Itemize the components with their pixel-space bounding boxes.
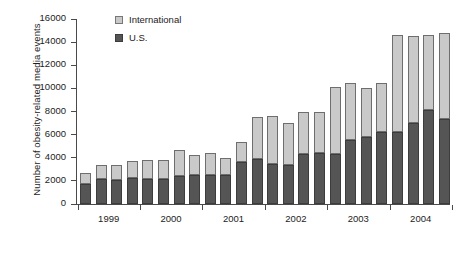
bar [345,83,356,204]
bar-segment-us [189,175,200,204]
bar [361,88,372,204]
bar-segment-international [158,160,169,179]
y-tick-label: 2000 [6,174,66,185]
x-axis-year-label: 2001 [199,213,269,224]
legend-label-international: International [129,14,181,25]
legend-item-international: International [115,14,181,25]
bar-segment-international [111,165,122,179]
bar-segment-international [298,112,309,155]
bar-segment-us [423,110,434,204]
bar [376,83,387,204]
bar-segment-international [236,142,247,163]
x-axis-year-label: 1999 [74,213,144,224]
bar [423,35,434,204]
x-axis-separator [265,205,266,210]
bar-segment-us [252,159,263,204]
bar-segment-us [345,140,356,204]
y-tick-label: 0 [6,197,66,208]
x-axis-separator [390,205,391,210]
bar-segment-international [127,161,138,178]
x-axis-separator [202,205,203,210]
bar [236,142,247,204]
bar [158,160,169,204]
bar-segment-us [283,165,294,204]
bar-segment-international [330,87,341,153]
bar [96,165,107,204]
bar [111,165,122,204]
bar [283,123,294,204]
legend-label-us: U.S. [129,32,147,43]
bar-segment-international [423,35,434,110]
bar-segment-us [267,164,278,204]
bar-segment-us [361,137,372,204]
y-tick-label: 10000 [6,81,66,92]
bar-segment-us [236,162,247,204]
bar [298,112,309,205]
bar-segment-international [220,158,231,175]
chart-legend: International U.S. [115,14,181,50]
bar-segment-international [267,116,278,163]
bar-segment-us [205,175,216,204]
x-axis-separator [140,205,141,210]
bar [252,117,263,204]
bar [314,112,325,205]
bar-segment-international [189,155,200,175]
y-tick-label: 4000 [6,151,66,162]
x-axis-separator [452,205,453,210]
bar [439,33,450,204]
bar-segment-us [330,154,341,204]
bar [220,158,231,204]
bar-segment-us [220,175,231,204]
bar-segment-us [96,179,107,204]
bar [392,35,403,204]
x-axis-year-label: 2003 [323,213,393,224]
chart-figure: Number of obesity-related media events 0… [0,0,460,263]
bar [142,160,153,204]
bar-segment-us [376,132,387,204]
bar-segment-us [174,176,185,204]
bar [80,173,91,204]
us-swatch-icon [115,34,123,42]
y-tick-label: 16000 [6,12,66,23]
bar-segment-international [392,35,403,132]
x-axis-separator [78,205,79,210]
y-tick-label: 8000 [6,105,66,116]
bar [174,150,185,204]
bar-segment-international [283,123,294,165]
bar-segment-international [80,173,91,184]
bar-segment-international [376,83,387,133]
bar-segment-international [345,83,356,140]
bar-segment-us [142,179,153,204]
x-axis-separator [327,205,328,210]
x-axis-line [76,204,450,205]
bar-segment-us [408,123,419,204]
bar-segment-international [142,160,153,179]
y-tick-label: 12000 [6,58,66,69]
x-axis-year-label: 2000 [136,213,206,224]
international-swatch-icon [115,16,123,24]
bar [330,87,341,204]
bar-segment-us [298,154,309,204]
bar-segment-us [392,132,403,204]
bar-segment-international [252,117,263,160]
bar [189,155,200,204]
bar-segment-international [314,112,325,154]
bar-segment-us [439,119,450,204]
bar [127,161,138,204]
bar-segment-international [361,88,372,137]
bar-segment-us [158,179,169,204]
bar [205,153,216,204]
bar [267,116,278,204]
bar-segment-us [127,178,138,204]
bar-segment-us [111,180,122,204]
bar-segment-international [96,165,107,178]
x-axis-year-label: 2004 [386,213,456,224]
bar [408,36,419,204]
bar-segment-us [314,153,325,204]
x-axis-year-label: 2002 [261,213,331,224]
bar-segment-international [439,33,450,119]
legend-item-us: U.S. [115,32,181,43]
bar-segment-international [174,150,185,177]
y-tick-label: 14000 [6,35,66,46]
bar-segment-us [80,184,91,204]
